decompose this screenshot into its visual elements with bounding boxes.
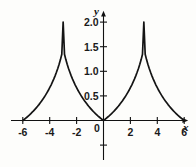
x-tick-label: -2 (66, 127, 88, 138)
x-tick-label: 4 (146, 127, 168, 138)
y-tick-label: 1.0 (75, 66, 99, 77)
y-tick-label: 0.5 (75, 91, 99, 102)
y-tick-label: 2.0 (75, 17, 99, 28)
origin-label: 0 (94, 123, 100, 134)
x-axis-label: x (183, 122, 189, 133)
x-tick-label: 2 (119, 127, 141, 138)
x-tick-label: -6 (12, 127, 34, 138)
graph-figure: -6-4-2246 0.51.01.52.0 0 x y (0, 0, 196, 167)
x-tick-label: -4 (39, 127, 61, 138)
y-axis-label: y (94, 6, 99, 17)
y-tick-label: 1.5 (75, 42, 99, 53)
